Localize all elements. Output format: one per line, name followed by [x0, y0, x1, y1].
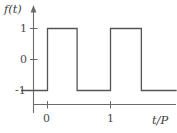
y-tick-label-1: 1	[20, 23, 27, 34]
plot-canvas	[0, 0, 177, 133]
y-tick-label-0: 0	[20, 54, 27, 65]
y-axis-arrow-icon	[31, 5, 37, 13]
x-axis-title: t/P	[152, 115, 168, 127]
x-tick-label-0: 0	[43, 113, 50, 124]
y-axis-title: f(t)	[4, 4, 22, 16]
x-tick-label-1: 1	[107, 113, 114, 124]
square-wave-figure: f(t) t/P 1 0 -1 0 1	[0, 0, 177, 133]
y-tick-label-minus-1: -1	[15, 85, 26, 96]
square-wave-trace	[21, 29, 177, 91]
